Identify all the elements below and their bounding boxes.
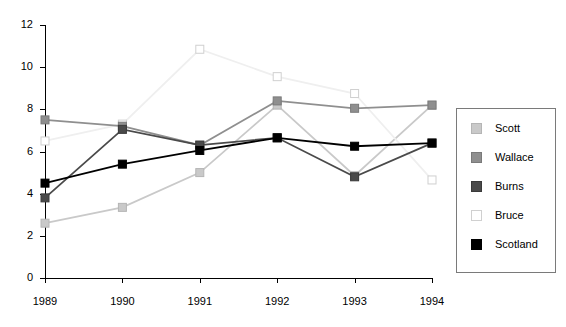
legend: ScottWallaceBurnsBruceScotland	[456, 108, 556, 273]
data-point	[118, 203, 126, 211]
series-bruce	[41, 45, 436, 184]
legend-label: Scotland	[495, 239, 538, 250]
data-point	[196, 45, 204, 53]
data-point	[41, 179, 49, 187]
legend-swatch-icon	[471, 181, 482, 192]
data-point	[41, 219, 49, 227]
series-scott	[41, 101, 436, 227]
line-chart: 024681012 198919901991199219931994 Scott…	[0, 0, 566, 327]
data-point	[351, 142, 359, 150]
data-point	[428, 101, 436, 109]
data-point	[428, 139, 436, 147]
data-point	[273, 73, 281, 81]
legend-item-scott[interactable]: Scott	[471, 123, 520, 134]
legend-swatch-icon	[471, 239, 482, 250]
legend-item-wallace[interactable]: Wallace	[471, 152, 534, 163]
series-line	[45, 138, 432, 183]
data-point	[273, 97, 281, 105]
series-line	[45, 49, 432, 180]
data-point	[196, 146, 204, 154]
data-point	[41, 194, 49, 202]
legend-label: Wallace	[495, 152, 534, 163]
data-point	[118, 125, 126, 133]
data-point	[41, 137, 49, 145]
legend-swatch-icon	[471, 210, 482, 221]
data-point	[273, 134, 281, 142]
data-point	[351, 90, 359, 98]
data-point	[351, 173, 359, 181]
legend-swatch-icon	[471, 152, 482, 163]
data-point	[118, 160, 126, 168]
series-burns	[41, 125, 436, 202]
data-point	[428, 176, 436, 184]
legend-label: Bruce	[495, 210, 524, 221]
legend-swatch-icon	[471, 123, 482, 134]
legend-item-burns[interactable]: Burns	[471, 181, 524, 192]
legend-item-bruce[interactable]: Bruce	[471, 210, 524, 221]
data-point	[351, 104, 359, 112]
legend-label: Scott	[495, 123, 520, 134]
legend-item-scotland[interactable]: Scotland	[471, 239, 538, 250]
data-point	[41, 116, 49, 124]
legend-label: Burns	[495, 181, 524, 192]
data-point	[196, 169, 204, 177]
